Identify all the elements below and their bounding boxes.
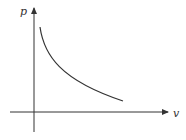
- y-axis-label: p: [20, 6, 27, 17]
- pv-curve: [40, 27, 123, 101]
- pv-diagram: [0, 0, 186, 140]
- x-axis-label: v: [173, 108, 179, 119]
